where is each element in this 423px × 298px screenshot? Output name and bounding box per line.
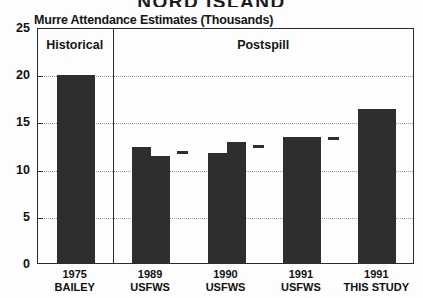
y-tick-mark <box>38 76 43 77</box>
x-tick-label: 1990USFWS <box>188 268 263 294</box>
y-tick-label: 15 <box>0 115 30 129</box>
y-tick-mark <box>38 123 43 124</box>
x-label-source: USFWS <box>112 281 187 294</box>
y-tick-mark <box>38 171 43 172</box>
bar-segment-left <box>132 147 151 263</box>
y-tick-label: 5 <box>0 210 30 224</box>
y-tick-label: 10 <box>0 163 30 177</box>
x-tick-label: 1989USFWS <box>112 268 187 294</box>
x-label-source: USFWS <box>263 281 338 294</box>
y-tick-label: 20 <box>0 68 30 82</box>
bar <box>57 75 95 263</box>
value-marker <box>328 137 339 140</box>
plot-area <box>37 28 414 264</box>
x-tick-label: 1975BAILEY <box>37 268 112 294</box>
x-label-year: 1991 <box>289 268 313 280</box>
x-label-year: 1989 <box>138 268 162 280</box>
panel-label-postspill: Postspill <box>112 38 414 52</box>
bar-segment-right <box>151 156 170 263</box>
bar <box>358 109 396 263</box>
x-label-source: USFWS <box>188 281 263 294</box>
bar-segment-right <box>227 142 246 263</box>
bar-segment-left <box>208 153 227 263</box>
x-label-year: 1975 <box>62 268 86 280</box>
x-label-source: THIS STUDY <box>339 281 414 294</box>
banner-title: NORD ISLAND <box>0 0 423 7</box>
x-label-year: 1991 <box>364 268 388 280</box>
y-tick-label: 25 <box>0 21 30 35</box>
value-marker <box>253 145 264 148</box>
x-tick-label: 1991THIS STUDY <box>339 268 414 294</box>
x-tick-label: 1991USFWS <box>263 268 338 294</box>
figure-root: NORD ISLAND Murre Attendance Estimates (… <box>0 0 423 298</box>
x-label-source: BAILEY <box>37 281 112 294</box>
x-label-year: 1990 <box>213 268 237 280</box>
bar <box>283 137 321 263</box>
value-marker <box>177 151 188 154</box>
panel-divider <box>113 29 114 263</box>
chart-title: Murre Attendance Estimates (Thousands) <box>34 13 273 27</box>
y-tick-mark <box>38 218 43 219</box>
y-tick-label: 0 <box>0 257 30 271</box>
panel-label-historical: Historical <box>37 38 112 52</box>
